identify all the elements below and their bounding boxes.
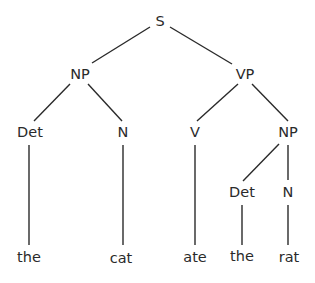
tree-nodes: SNPVPDetNVNPDetNthecatatetherat — [17, 13, 299, 266]
node-np2: NP — [278, 124, 298, 140]
node-np1: NP — [70, 66, 90, 82]
leaf-word-w3: ate — [183, 249, 207, 265]
syntax-tree-diagram: SNPVPDetNVNPDetNthecatatetherat — [0, 0, 315, 283]
tree-edges — [29, 27, 288, 245]
edge-np2-det2 — [243, 144, 279, 181]
edge-s-vp — [170, 27, 232, 64]
node-det2: Det — [229, 184, 255, 200]
node-det1: Det — [17, 124, 43, 140]
node-n2: N — [283, 184, 294, 200]
edge-s-np1 — [92, 27, 150, 63]
node-vp: VP — [236, 66, 255, 82]
leaf-word-w2: cat — [110, 250, 133, 266]
leaf-word-w5: rat — [279, 249, 300, 265]
edge-vp-v — [197, 84, 238, 121]
leaf-word-w4: the — [230, 248, 254, 264]
edge-np1-det1 — [34, 84, 70, 121]
edge-vp-np2 — [252, 84, 288, 121]
edge-np1-n1 — [88, 84, 122, 121]
node-v: V — [190, 124, 200, 140]
node-n1: N — [118, 124, 129, 140]
node-s: S — [155, 13, 164, 29]
leaf-word-w1: the — [17, 249, 41, 265]
